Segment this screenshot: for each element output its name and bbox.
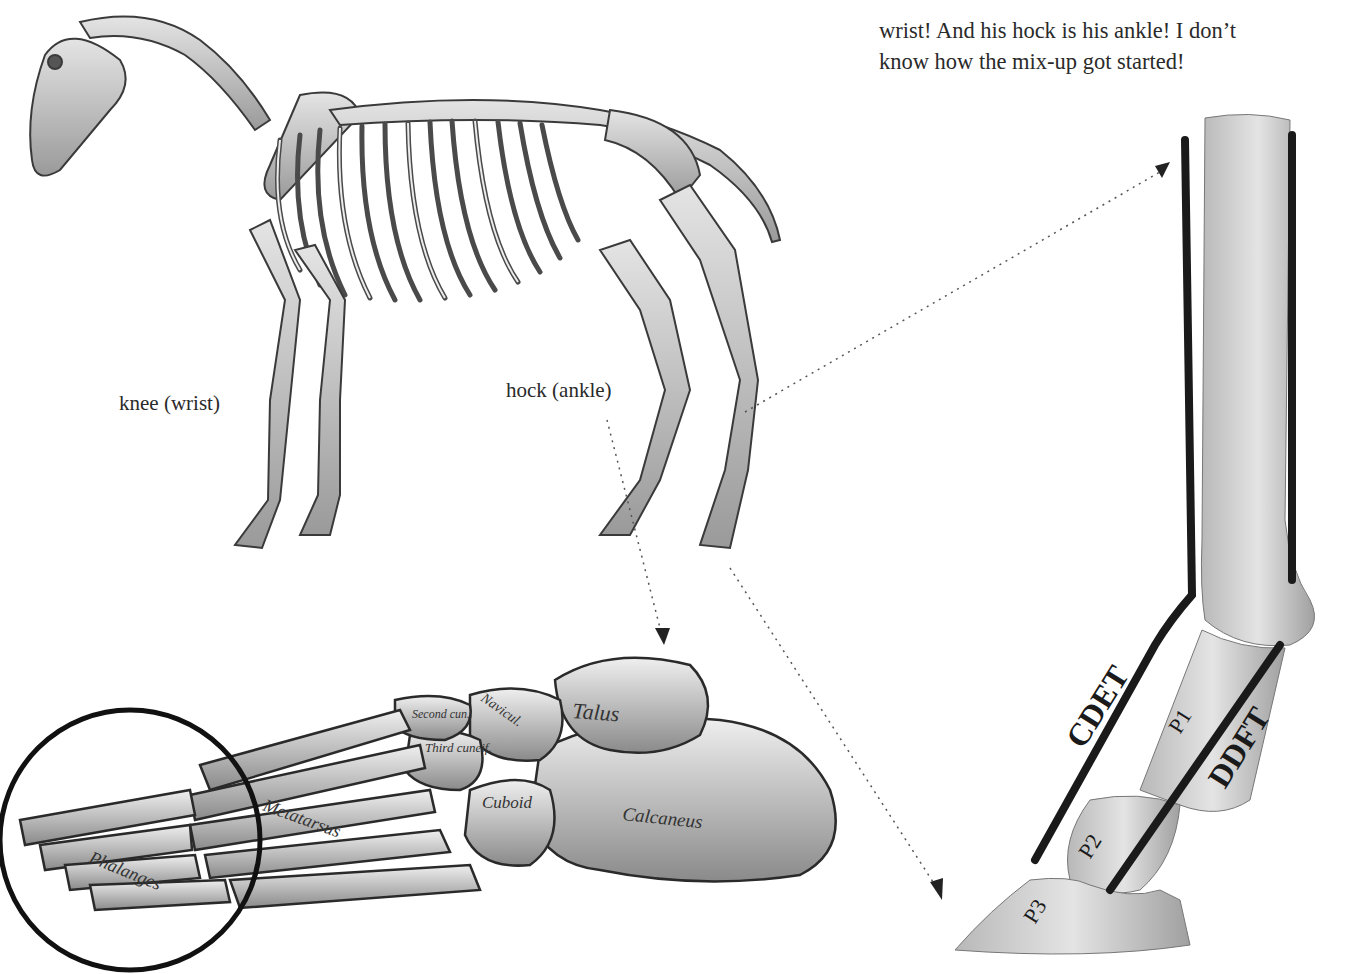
label-third-cuneiform: Third cuneif. (425, 740, 492, 755)
label-second-cuneiform: Second cun. (412, 707, 470, 721)
label-talus: Talus (572, 698, 621, 726)
foot-bones-illustration: Talus Calcaneus Cuboid Third cuneif. Sec… (0, 640, 860, 974)
p3-bone (955, 878, 1190, 954)
label-cuboid: Cuboid (482, 793, 533, 812)
cannon-bone (1201, 114, 1314, 645)
lower-leg-illustration: CDET DDFT P1 P2 P3 (940, 100, 1357, 974)
